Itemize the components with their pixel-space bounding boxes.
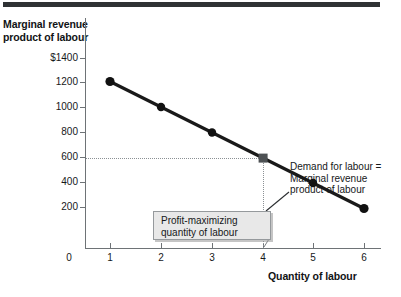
data-point-2 [157,103,165,111]
y-tick-1400 [80,58,85,59]
x-tick-label-2: 2 [149,252,173,263]
profit-maximizing-callout: Profit-maximizing quantity of labour [153,211,271,240]
demand-curve-label-line-2: Marginal revenue [290,173,381,185]
x-tick-label-0: 0 [57,252,81,263]
x-tick-label-4: 4 [251,252,275,263]
y-tick-800 [80,132,85,133]
y-axis-title-line-2: product of labour [3,31,123,44]
top-rule-divider [3,2,380,7]
x-tick-3 [212,243,213,248]
data-point-1 [105,77,114,86]
y-axis-title: Marginal revenue product of labour [3,18,123,43]
x-axis-line [85,248,381,249]
y-tick-label-400: 400 [6,176,78,187]
demand-curve-label-line-3: product of labour [290,184,381,196]
y-tick-1200 [80,82,85,83]
x-axis-title: Quantity of labour [268,270,357,282]
demand-curve-label: Demand for labour = Marginal revenue pro… [290,161,381,196]
y-tick-label-1000: 1000 [6,101,78,112]
x-tick-label-6: 6 [352,252,376,263]
y-tick-label-600: 600 [6,151,78,162]
y-axis-line [85,18,86,249]
y-tick-600 [80,157,85,158]
y-tick-label-1400: $1400 [6,52,78,63]
profit-maximizing-callout-line-2: quantity of labour [161,227,238,239]
x-tick-label-3: 3 [200,252,224,263]
x-tick-1 [110,243,111,248]
profit-maximizing-callout-line-1: Profit-maximizing [161,215,238,227]
data-point-6 [359,204,368,213]
y-tick-1000 [80,107,85,108]
chart-figure: Marginal revenue product of labour $1400… [0,0,401,297]
data-point-3 [208,128,216,136]
x-tick-label-1: 1 [98,252,122,263]
x-tick-2 [161,243,162,248]
demand-curve-label-line-1: Demand for labour = [290,161,381,173]
x-tick-5 [313,243,314,248]
y-axis-title-line-1: Marginal revenue [3,18,123,31]
x-tick-label-5: 5 [301,252,325,263]
profit-maximizing-callout-text: Profit-maximizing quantity of labour [161,215,238,238]
y-tick-400 [80,182,85,183]
y-tick-label-800: 800 [6,126,78,137]
y-tick-label-1200: 1200 [6,76,78,87]
y-tick-label-200: 200 [6,201,78,212]
y-tick-200 [80,207,85,208]
guide-line-horizontal-600 [86,158,263,159]
x-tick-6 [364,243,365,248]
